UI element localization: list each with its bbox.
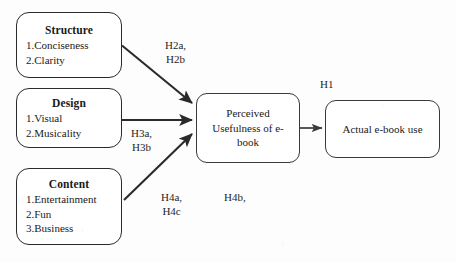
node-design-items: 1.Visual 2.Musicality — [17, 111, 121, 140]
hypothesis-label-h1: H1 — [320, 77, 333, 91]
node-content[interactable]: Content 1.Entertainment 2.Fun 3.Business — [16, 168, 122, 245]
node-content-items: 1.Entertainment 2.Fun 3.Business — [17, 192, 121, 236]
hypothesis-label-h3: H3a, H3b — [131, 126, 152, 154]
node-structure[interactable]: Structure 1.Conciseness 2.Clarity — [16, 12, 122, 78]
node-perceived-usefulness-label: Perceived Usefulness of e-book — [205, 106, 291, 150]
list-item: 1.Entertainment — [26, 192, 121, 207]
list-item: 3.Business — [26, 221, 121, 236]
list-item: 2.Clarity — [26, 53, 121, 68]
node-perceived-usefulness[interactable]: Perceived Usefulness of e-book — [196, 93, 300, 163]
hypothesis-label-h2: H2a, H2b — [165, 38, 186, 66]
node-design-title: Design — [17, 96, 121, 110]
list-item: 2.Fun — [26, 207, 121, 222]
list-item: 1.Visual — [26, 111, 121, 126]
node-actual-use-label: Actual e-book use — [342, 122, 422, 137]
node-actual-use[interactable]: Actual e-book use — [325, 100, 440, 158]
list-item: 1.Conciseness — [26, 38, 121, 53]
list-item: 2.Musicality — [26, 126, 121, 141]
node-structure-items: 1.Conciseness 2.Clarity — [17, 38, 121, 67]
node-structure-title: Structure — [17, 23, 121, 37]
hypothesis-label-h4-left: H4a, H4c — [161, 190, 182, 218]
hypothesis-label-h4-right: H4b, — [224, 190, 246, 204]
node-content-title: Content — [17, 177, 121, 191]
node-design[interactable]: Design 1.Visual 2.Musicality — [16, 88, 122, 148]
figure-canvas: Structure 1.Conciseness 2.Clarity Design… — [0, 0, 456, 262]
